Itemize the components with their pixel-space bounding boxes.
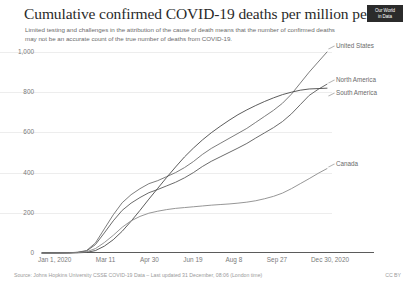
chart-container: Cumulative confirmed COVID-19 deaths per… <box>0 0 409 294</box>
license-note[interactable]: CC BY <box>385 272 401 278</box>
logo-line-2: in Data <box>367 14 403 20</box>
page-title: Cumulative confirmed COVID-19 deaths per… <box>24 5 393 23</box>
series-line-south-america <box>42 88 327 253</box>
plot-area <box>42 52 327 253</box>
our-world-in-data-logo[interactable]: Our World in Data <box>367 5 403 22</box>
series-line-canada <box>42 169 327 253</box>
source-note: Source: Johns Hopkins University CSSE CO… <box>14 272 262 278</box>
x-tick-2: Apr 30 <box>140 256 159 263</box>
y-tick-200: 200 <box>8 209 34 216</box>
series-leader-united-states <box>328 45 335 49</box>
series-leader-north-america <box>328 80 335 84</box>
series-label-north-america[interactable]: North America <box>336 76 376 83</box>
series-leader-canada <box>328 163 335 167</box>
y-tick-1000: 1,000 <box>8 48 34 55</box>
y-tick-600: 600 <box>8 128 34 135</box>
x-tick-5: Sep 27 <box>267 256 287 263</box>
series-label-united-states[interactable]: United States <box>336 42 374 49</box>
series-leader-south-america <box>328 93 335 97</box>
y-tick-400: 400 <box>8 169 34 176</box>
series-label-canada[interactable]: Canada <box>336 160 358 167</box>
x-tick-3: Jun 19 <box>183 256 202 263</box>
x-tick-0: Jan 1, 2020 <box>38 256 71 263</box>
x-tick-1: Mar 11 <box>96 256 115 263</box>
chart-subtitle: Limited testing and challenges in the at… <box>25 25 345 43</box>
y-tick-0: 0 <box>8 249 34 256</box>
x-tick-4: Aug 8 <box>226 256 243 263</box>
series-line-north-america <box>42 84 327 253</box>
x-tick-6: Dec 30, 2020 <box>311 256 349 263</box>
series-label-south-america[interactable]: South America <box>336 89 377 96</box>
series-line-united-states <box>42 52 327 253</box>
y-tick-800: 800 <box>8 88 34 95</box>
